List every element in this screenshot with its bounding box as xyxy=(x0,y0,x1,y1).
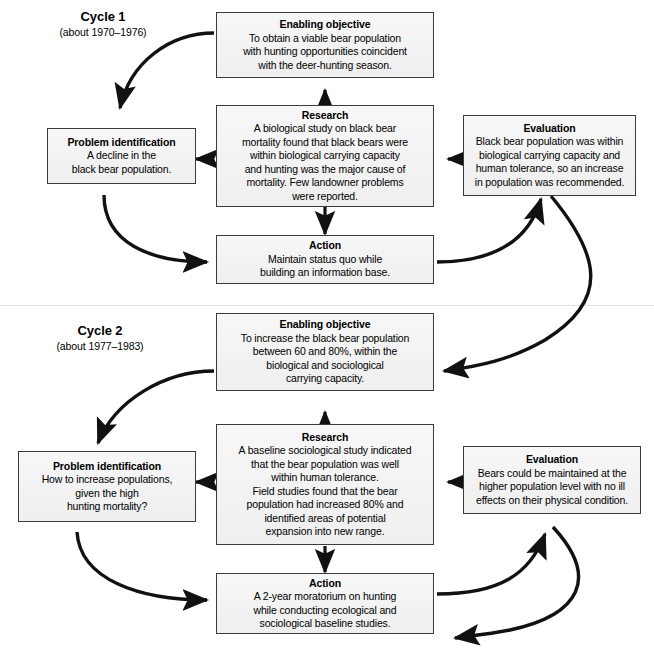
arrow-c1-problem-to-action xyxy=(104,195,207,262)
c2-problem-identification-text: How to increase populations, given the h… xyxy=(42,473,173,514)
c2-enabling-objective-box[interactable]: Enabling objective To increase the black… xyxy=(216,313,434,391)
c2-research-title: Research xyxy=(302,431,348,445)
arrow-c2-action-to-evaluation xyxy=(437,534,545,594)
c1-enabling-objective-title: Enabling objective xyxy=(280,18,371,32)
cycle-1-label: Cycle 1 (about 1970–1976) xyxy=(3,8,203,40)
c1-research-text: A biological study on black bear mortali… xyxy=(242,122,408,203)
c1-evaluation-text: Black bear population was within biologi… xyxy=(475,135,625,189)
c1-evaluation-box[interactable]: Evaluation Black bear population was wit… xyxy=(463,115,636,196)
c1-enabling-objective-box[interactable]: Enabling objective To obtain a viable be… xyxy=(216,12,434,78)
c2-problem-identification-box[interactable]: Problem identification How to increase p… xyxy=(18,451,196,522)
c2-evaluation-text: Bears could be maintained at the higher … xyxy=(476,467,628,508)
c1-problem-identification-title: Problem identification xyxy=(67,136,175,150)
c2-research-box[interactable]: Research A baseline sociological study i… xyxy=(216,424,434,545)
c2-action-title: Action xyxy=(309,577,341,591)
arrow-c2-problem-to-action xyxy=(77,532,207,600)
c2-evaluation-box[interactable]: Evaluation Bears could be maintained at … xyxy=(463,446,641,514)
diagram-canvas: Cycle 1 (about 1970–1976) Enabling objec… xyxy=(0,0,654,649)
c2-action-text: A 2-year moratorium on hunting while con… xyxy=(253,590,396,631)
c1-problem-identification-text: A decline in the black bear population. xyxy=(72,149,171,176)
c2-problem-identification-title: Problem identification xyxy=(53,460,161,474)
c2-evaluation-title: Evaluation xyxy=(526,453,578,467)
c1-research-title: Research xyxy=(302,109,348,123)
c1-problem-identification-box[interactable]: Problem identification A decline in the … xyxy=(47,128,196,184)
c1-enabling-objective-text: To obtain a viable bear population with … xyxy=(243,32,407,73)
cycle-2-period: (about 1977–1983) xyxy=(0,339,200,354)
c2-enabling-objective-text: To increase the black bear population be… xyxy=(241,332,409,386)
c2-research-text: A baseline sociological study indicated … xyxy=(239,444,412,539)
c1-action-title: Action xyxy=(309,239,341,253)
cycle-1-name: Cycle 1 xyxy=(3,8,203,25)
c1-evaluation-title: Evaluation xyxy=(523,122,575,136)
arrow-c1-evaluation-to-c2-objective xyxy=(444,196,591,371)
c1-action-box[interactable]: Action Maintain status quo while buildin… xyxy=(216,235,434,284)
cycle-2-name: Cycle 2 xyxy=(0,322,200,339)
cycle-divider xyxy=(0,305,654,306)
c1-research-box[interactable]: Research A biological study on black bea… xyxy=(216,105,434,207)
arrow-c2-objective-to-problem xyxy=(98,371,214,443)
cycle-2-label: Cycle 2 (about 1977–1983) xyxy=(0,322,200,354)
c2-action-box[interactable]: Action A 2-year moratorium on hunting wh… xyxy=(216,573,434,634)
arrow-c1-objective-to-problem xyxy=(120,33,214,108)
arrow-c1-action-to-evaluation xyxy=(437,199,541,262)
arrow-c2-evaluation-to-next-cycle xyxy=(455,527,579,638)
c1-action-text: Maintain status quo while building an in… xyxy=(260,253,390,280)
cycle-1-period: (about 1970–1976) xyxy=(3,25,203,40)
c2-enabling-objective-title: Enabling objective xyxy=(280,318,371,332)
